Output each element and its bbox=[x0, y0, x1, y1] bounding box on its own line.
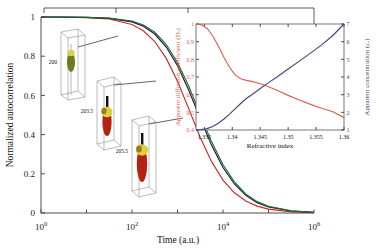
inset-axes: 1.3351.341.3451.351.3551.36 0.40.50.60.7… bbox=[174, 21, 371, 150]
cuvette-annotation-3: 205.5 bbox=[116, 116, 183, 197]
main-x-tick-label: 102 bbox=[126, 220, 138, 233]
inset-left-y-tick-label: 0.7 bbox=[187, 74, 195, 80]
inset-frame bbox=[196, 24, 344, 130]
cuvette-label-3: 205.5 bbox=[116, 148, 129, 154]
inset-left-y-tick-label: 1 bbox=[191, 21, 194, 27]
inset-right-y-axis-label: Apparent concentration (cₐ) bbox=[363, 38, 371, 116]
main-y-ticks: 00.20.40.60.81 bbox=[24, 12, 45, 218]
inset-right-y-tick-label: 2 bbox=[347, 110, 350, 116]
inset-right-y-tick-label: 7 bbox=[347, 21, 350, 27]
inset-left-y-tick-label: 0.9 bbox=[187, 39, 195, 45]
inset-left-y-tick-label: 0.4 bbox=[187, 127, 195, 133]
particle-shade-3 bbox=[136, 146, 142, 153]
main-y-tick-label: 0.6 bbox=[24, 91, 36, 101]
inset-x-axis-label: Refractive index bbox=[247, 142, 294, 150]
main-y-tick-label: 0.8 bbox=[24, 51, 36, 61]
main-x-axis-label: Time (a.u.) bbox=[157, 235, 199, 246]
inset-x-tick-label: 1.35 bbox=[283, 134, 294, 140]
main-y-tick-label: 0.4 bbox=[24, 130, 36, 140]
scientific-figure-svg: 00.20.40.60.81 100102104106 Normalized a… bbox=[0, 0, 379, 248]
particle-cap-1 bbox=[67, 50, 74, 56]
inset-x-tick-label: 1.345 bbox=[253, 134, 267, 140]
inset-x-tick-label: 1.34 bbox=[227, 134, 238, 140]
particle-shade-2 bbox=[101, 108, 106, 114]
cuvette-annotation-1: 200 bbox=[49, 29, 118, 100]
inset-left-y-tick-label: 0.5 bbox=[187, 110, 195, 116]
inset-right-y-tick-label: 5 bbox=[347, 57, 350, 63]
inset-left-y-tick-label: 0.6 bbox=[187, 92, 195, 98]
cuvette-label-1: 200 bbox=[49, 59, 58, 65]
inset-x-tick-label: 1.355 bbox=[309, 134, 323, 140]
cuvette-label-2: 203.5 bbox=[81, 108, 94, 114]
inset-right-y-tick-label: 6 bbox=[347, 39, 350, 45]
main-y-tick-label: 0 bbox=[31, 208, 36, 218]
inset-right-y-tick-label: 1 bbox=[347, 127, 350, 133]
main-x-tick-label: 100 bbox=[35, 220, 47, 233]
main-x-tick-label: 106 bbox=[308, 220, 321, 233]
zoom-bracket bbox=[44, 8, 314, 24]
figure-container: 00.20.40.60.81 100102104106 Normalized a… bbox=[0, 0, 379, 248]
inset-left-y-axis-label: Apparent diffusion coefficient (Dₐ) bbox=[174, 27, 182, 126]
main-y-axis-label: Normalized autocorrelation bbox=[5, 62, 15, 167]
inset-x-tick-label: 1.36 bbox=[339, 134, 350, 140]
inset-right-y-tick-label: 4 bbox=[347, 74, 350, 80]
main-x-tick-label: 104 bbox=[217, 220, 230, 233]
inset-right-y-tick-label: 3 bbox=[347, 92, 350, 98]
inset-left-y-tick-label: 0.8 bbox=[187, 57, 195, 63]
inset-x-tick-label: 1.335 bbox=[198, 134, 212, 140]
cuvette-annotation-2: 203.5 bbox=[81, 77, 156, 150]
main-y-tick-label: 0.2 bbox=[24, 169, 35, 179]
main-y-tick-label: 1 bbox=[31, 12, 36, 22]
